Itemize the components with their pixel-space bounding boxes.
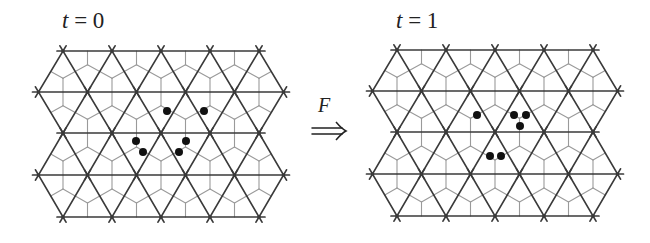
subdivision-line <box>222 65 234 72</box>
subdivision-line <box>471 146 483 153</box>
subdivision-line <box>544 71 556 78</box>
subdivision-line <box>593 71 605 78</box>
subdivision-line <box>259 106 271 113</box>
subdivision-line <box>186 113 198 120</box>
time-value: = 1 <box>402 8 438 33</box>
subdivision-line <box>544 188 556 195</box>
subdivision-line <box>593 188 605 195</box>
lattice-diagonal-line <box>565 169 596 221</box>
subdivision-line <box>409 64 421 71</box>
lattice-node <box>542 214 546 218</box>
lattice-diagonal-line <box>369 127 400 179</box>
subdivision-line <box>112 72 124 79</box>
lattice-node <box>469 172 473 176</box>
lattice-diagonal-line <box>207 170 238 222</box>
subdivision-line <box>581 105 593 112</box>
subdivision-line <box>100 106 112 113</box>
lattice-node <box>591 130 595 134</box>
lattice-node <box>567 89 571 93</box>
particle-dot <box>473 111 481 119</box>
subdivision-line <box>75 113 87 120</box>
subdivision-line <box>434 71 446 78</box>
lattice-diagonal-line <box>443 169 474 221</box>
subdivision-line <box>544 105 556 112</box>
particle-dot <box>522 111 530 119</box>
subdivision-line <box>409 112 421 119</box>
subdivision-line <box>556 64 568 71</box>
lattice-node <box>110 215 114 219</box>
lattice-node <box>395 214 399 218</box>
subdivision-line <box>149 106 161 113</box>
lattice-node <box>542 48 546 52</box>
subdivision-line <box>51 72 63 79</box>
subdivision-line <box>173 196 185 203</box>
panel-title-t1: t = 1 <box>396 8 438 34</box>
lattice-node <box>616 89 620 93</box>
subdivision-line <box>507 64 519 71</box>
subdivision-line <box>471 64 483 71</box>
subdivision-line <box>569 112 581 119</box>
subdivision-line <box>210 189 222 196</box>
lattice-diagonal-line <box>256 46 287 97</box>
lattice-node <box>135 173 139 177</box>
subdivision-line <box>247 106 259 113</box>
lattice-diagonal-line <box>590 127 621 179</box>
subdivision-line <box>409 195 421 202</box>
subdivision-line <box>51 106 63 113</box>
lattice-node <box>616 172 620 176</box>
lattice-node <box>395 130 399 134</box>
subdivision-line <box>210 154 222 161</box>
lattice-node <box>135 90 139 94</box>
lattice-node <box>591 48 595 52</box>
subdivision-line <box>593 105 605 112</box>
lattice-diagonal-line <box>256 128 287 180</box>
lattice-node <box>86 90 90 94</box>
subdivision-line <box>385 153 397 160</box>
subdivision-line <box>51 154 63 161</box>
subdivision-line <box>75 65 87 72</box>
panel-title-t0: t = 0 <box>62 8 104 34</box>
lattice-node <box>420 89 424 93</box>
arrow-head <box>336 122 346 140</box>
lattice-node <box>282 90 286 94</box>
lattice-node <box>493 130 497 134</box>
lattice-node <box>282 173 286 177</box>
lattice-diagonal-line <box>369 169 400 221</box>
lattice-node <box>493 214 497 218</box>
subdivision-line <box>495 188 507 195</box>
lattice-node <box>444 48 448 52</box>
subdivision-line <box>247 72 259 79</box>
subdivision-line <box>483 71 495 78</box>
lattice-node <box>61 131 65 135</box>
lattice-node <box>257 131 261 135</box>
lattice-node <box>184 90 188 94</box>
lattice-node <box>469 89 473 93</box>
subdivision-line <box>222 113 234 120</box>
subdivision-line <box>422 195 434 202</box>
subdivision-line <box>137 196 149 203</box>
lattice-node <box>37 90 41 94</box>
subdivision-line <box>124 196 136 203</box>
subdivision-line <box>422 64 434 71</box>
subdivision-line <box>507 146 519 153</box>
subdivision-line <box>259 72 271 79</box>
lattice-node <box>61 215 65 219</box>
subdivision-line <box>149 189 161 196</box>
subdivision-line <box>385 71 397 78</box>
lattice-diagonal-line <box>467 169 498 221</box>
lattice-node <box>159 131 163 135</box>
subdivision-line <box>446 105 458 112</box>
subdivision-line <box>63 72 75 79</box>
lattice-node <box>420 172 424 176</box>
subdivision-line <box>556 112 568 119</box>
subdivision-line <box>483 188 495 195</box>
lattice-node <box>371 172 375 176</box>
subdivision-line <box>483 105 495 112</box>
subdivision-line <box>100 72 112 79</box>
lattice-node <box>257 215 261 219</box>
particle-dot <box>516 122 524 130</box>
subdivision-line <box>458 112 470 119</box>
subdivision-line <box>173 113 185 120</box>
lattice-node <box>518 172 522 176</box>
lattice-node <box>395 48 399 52</box>
